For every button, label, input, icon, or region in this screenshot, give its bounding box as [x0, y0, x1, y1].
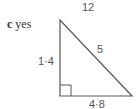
- right-triangle-diagram: [0, 0, 138, 109]
- hypotenuse-label: 5: [97, 44, 103, 55]
- base-label: 4·8: [89, 99, 105, 109]
- right-angle-marker: [60, 85, 71, 96]
- left-side-label: 1·4: [38, 56, 54, 67]
